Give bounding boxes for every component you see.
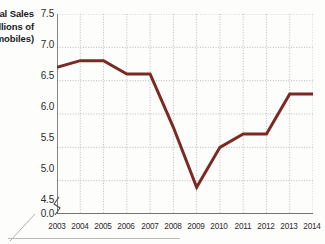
x-tick-label-2013: 2013 bbox=[277, 222, 301, 231]
plot-area bbox=[57, 14, 313, 214]
y-axis-title: Annual Sales (Millions of Automobiles) bbox=[0, 8, 34, 46]
x-tick-label-2010: 2010 bbox=[207, 222, 231, 231]
y-tick-label-6-5: 6.5 bbox=[30, 70, 54, 81]
gridlines bbox=[57, 14, 313, 214]
x-tick-label-2003: 2003 bbox=[45, 222, 69, 231]
x-tick-label-2004: 2004 bbox=[68, 222, 92, 231]
y-tick-label-7-5: 7.5 bbox=[30, 8, 54, 19]
y-tick-label-5-0: 5.0 bbox=[30, 163, 54, 174]
line-chart: Annual Sales (Millions of Automobiles) 7… bbox=[0, 0, 325, 244]
y-tick-label-7-0: 7.0 bbox=[30, 39, 54, 50]
data-series-line bbox=[57, 61, 313, 188]
x-tick-label-2007: 2007 bbox=[138, 222, 162, 231]
x-tick-label-2009: 2009 bbox=[184, 222, 208, 231]
x-tick-label-2005: 2005 bbox=[91, 222, 115, 231]
x-tick-label-2008: 2008 bbox=[161, 222, 185, 231]
x-tick-label-2012: 2012 bbox=[254, 222, 278, 231]
x-tick-label-2011: 2011 bbox=[231, 222, 255, 231]
x-tick-label-2006: 2006 bbox=[114, 222, 138, 231]
scan-artifact-underline bbox=[8, 238, 180, 239]
x-tick-label-2014: 2014 bbox=[300, 222, 324, 231]
y-tick-label-5-5: 5.5 bbox=[30, 132, 54, 143]
y-tick-label-6-0: 6.0 bbox=[30, 101, 54, 112]
